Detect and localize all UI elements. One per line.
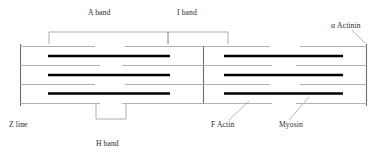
f-actin-label: F Actin	[211, 121, 234, 129]
myosin-leader-line	[289, 97, 309, 120]
a-band-label: A band	[88, 9, 110, 17]
alpha-actinin-label: α Actinin	[331, 22, 361, 30]
myosin-label: Myosin	[279, 121, 303, 129]
i-band-bracket	[168, 32, 228, 44]
h-band-label: H band	[96, 140, 119, 148]
h-band-bracket	[96, 104, 126, 119]
diagram-vector-layer	[0, 0, 380, 158]
i-band-label: I band	[177, 9, 197, 17]
a-band-bracket	[49, 32, 168, 44]
alpha-actinin-leader-line	[352, 30, 366, 44]
z-line-label: Z line	[9, 121, 28, 129]
sarcomere-diagram: A band I band α Actinin Z line H band F …	[0, 0, 380, 158]
